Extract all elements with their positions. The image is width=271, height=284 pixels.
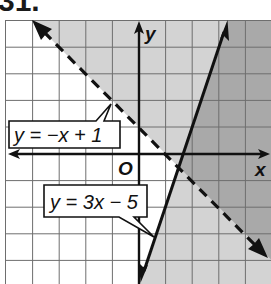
x-axis-label: x <box>254 159 267 180</box>
y-axis-label: y <box>144 23 157 44</box>
dashed-equation-label: y = −x + 1 <box>12 124 102 146</box>
inequality-graph: y x O y = −x + 1 y = 3x − 5 <box>0 0 271 284</box>
origin-label: O <box>118 158 133 179</box>
solid-equation-label: y = 3x − 5 <box>48 191 139 213</box>
